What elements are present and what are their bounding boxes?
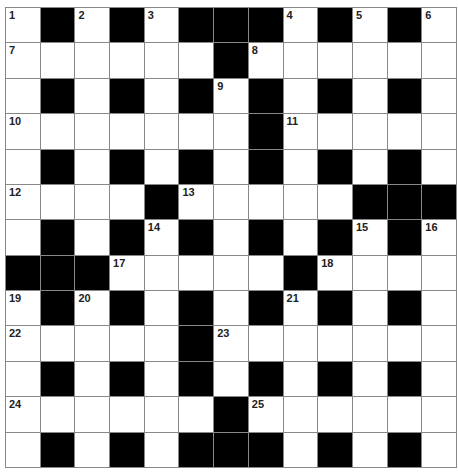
crossword-cell[interactable] [353,79,387,113]
crossword-cell[interactable] [353,291,387,325]
crossword-cell[interactable]: 15 [353,220,387,254]
crossword-cell[interactable] [6,362,40,396]
crossword-cell[interactable] [145,326,179,360]
crossword-cell[interactable] [145,291,179,325]
crossword-cell[interactable] [6,150,40,184]
crossword-cell[interactable] [249,326,283,360]
crossword-cell[interactable]: 3 [145,8,179,42]
crossword-cell[interactable] [110,397,144,431]
crossword-cell[interactable] [284,185,318,219]
crossword-cell[interactable] [145,114,179,148]
crossword-cell[interactable] [75,43,109,77]
crossword-cell[interactable]: 12 [6,185,40,219]
crossword-cell[interactable] [75,79,109,113]
crossword-cell[interactable] [75,220,109,254]
crossword-cell[interactable] [110,43,144,77]
crossword-cell[interactable] [179,43,213,77]
crossword-cell[interactable] [145,433,179,467]
crossword-cell[interactable] [214,185,248,219]
crossword-cell[interactable]: 6 [422,8,456,42]
crossword-cell[interactable] [214,291,248,325]
crossword-cell[interactable] [388,397,422,431]
crossword-cell[interactable]: 14 [145,220,179,254]
crossword-cell[interactable] [422,79,456,113]
crossword-cell[interactable] [145,397,179,431]
crossword-cell[interactable] [422,150,456,184]
crossword-cell[interactable]: 4 [284,8,318,42]
crossword-cell[interactable] [353,114,387,148]
crossword-cell[interactable] [6,220,40,254]
crossword-cell[interactable] [249,256,283,290]
crossword-cell[interactable] [179,397,213,431]
crossword-cell[interactable] [353,433,387,467]
crossword-cell[interactable] [41,43,75,77]
crossword-cell[interactable]: 23 [214,326,248,360]
crossword-cell[interactable] [422,433,456,467]
crossword-cell[interactable]: 25 [249,397,283,431]
crossword-cell[interactable] [6,79,40,113]
crossword-cell[interactable] [214,220,248,254]
crossword-cell[interactable] [75,114,109,148]
crossword-cell[interactable] [110,114,144,148]
crossword-cell[interactable] [422,43,456,77]
crossword-cell[interactable] [353,256,387,290]
crossword-cell[interactable] [145,79,179,113]
crossword-cell[interactable]: 7 [6,43,40,77]
crossword-cell[interactable] [353,43,387,77]
crossword-cell[interactable] [41,114,75,148]
crossword-cell[interactable] [75,362,109,396]
crossword-cell[interactable] [353,362,387,396]
crossword-cell[interactable] [422,326,456,360]
crossword-cell[interactable] [422,291,456,325]
crossword-cell[interactable]: 11 [284,114,318,148]
crossword-cell[interactable] [284,433,318,467]
crossword-cell[interactable]: 19 [6,291,40,325]
crossword-cell[interactable]: 5 [353,8,387,42]
crossword-cell[interactable] [179,114,213,148]
crossword-cell[interactable] [145,150,179,184]
crossword-cell[interactable] [388,114,422,148]
crossword-cell[interactable] [214,362,248,396]
crossword-cell[interactable]: 24 [6,397,40,431]
crossword-cell[interactable] [75,150,109,184]
crossword-cell[interactable]: 18 [318,256,352,290]
crossword-cell[interactable] [284,79,318,113]
crossword-cell[interactable] [422,114,456,148]
crossword-cell[interactable] [422,362,456,396]
crossword-cell[interactable] [6,433,40,467]
crossword-cell[interactable] [353,150,387,184]
crossword-cell[interactable] [284,397,318,431]
crossword-cell[interactable] [318,185,352,219]
crossword-cell[interactable] [145,43,179,77]
crossword-cell[interactable] [388,326,422,360]
crossword-cell[interactable] [318,326,352,360]
crossword-cell[interactable] [41,397,75,431]
crossword-cell[interactable] [388,256,422,290]
crossword-cell[interactable]: 2 [75,8,109,42]
crossword-cell[interactable] [249,185,283,219]
crossword-cell[interactable] [179,256,213,290]
crossword-cell[interactable] [353,397,387,431]
crossword-cell[interactable] [422,397,456,431]
crossword-cell[interactable]: 16 [422,220,456,254]
crossword-cell[interactable]: 17 [110,256,144,290]
crossword-cell[interactable] [75,433,109,467]
crossword-cell[interactable] [284,326,318,360]
crossword-cell[interactable] [318,397,352,431]
crossword-cell[interactable] [214,256,248,290]
crossword-cell[interactable] [110,326,144,360]
crossword-cell[interactable]: 10 [6,114,40,148]
crossword-cell[interactable]: 9 [214,79,248,113]
crossword-cell[interactable] [214,114,248,148]
crossword-cell[interactable]: 1 [6,8,40,42]
crossword-cell[interactable]: 22 [6,326,40,360]
crossword-cell[interactable] [145,362,179,396]
crossword-cell[interactable] [318,43,352,77]
crossword-cell[interactable] [41,326,75,360]
crossword-cell[interactable] [422,256,456,290]
crossword-cell[interactable] [318,114,352,148]
crossword-cell[interactable] [284,362,318,396]
crossword-cell[interactable] [75,326,109,360]
crossword-cell[interactable] [145,256,179,290]
crossword-cell[interactable] [284,220,318,254]
